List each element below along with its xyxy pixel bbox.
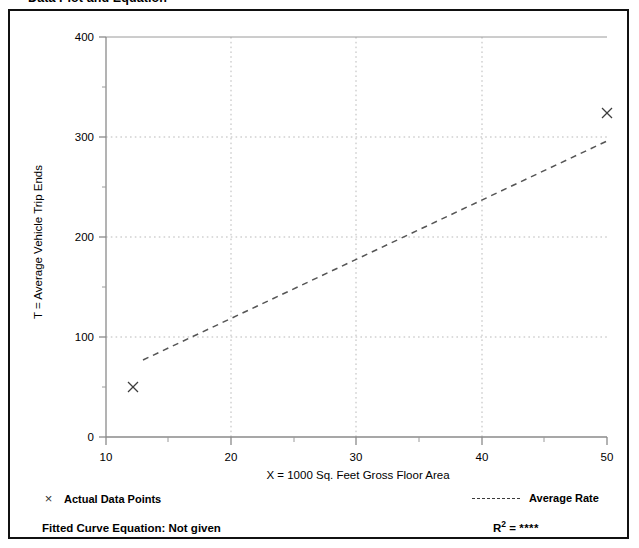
chart-legend: × Actual Data Points Average Rate bbox=[0, 492, 639, 514]
legend-item-average-rate: Average Rate bbox=[472, 492, 599, 504]
y-tick-label-100: 100 bbox=[75, 331, 94, 343]
x-marker-icon: × bbox=[42, 492, 55, 505]
r-squared-equals: = bbox=[509, 522, 516, 534]
y-axis-title: T = Average Vehicle Trip Ends bbox=[32, 165, 44, 319]
x-tick-label-50: 50 bbox=[601, 451, 614, 463]
average-rate-trend-line bbox=[143, 141, 607, 360]
legend-label-average-rate: Average Rate bbox=[529, 492, 599, 504]
legend-label-actual-data-points: Actual Data Points bbox=[64, 493, 161, 505]
x-axis-title: X = 1000 Sq. Feet Gross Floor Area bbox=[266, 469, 450, 481]
y-tick-label-0: 0 bbox=[88, 431, 94, 443]
x-tick-label-10: 10 bbox=[100, 451, 113, 463]
dashed-line-icon bbox=[472, 498, 520, 499]
fitted-curve-equation: Fitted Curve Equation: Not given bbox=[42, 522, 221, 534]
x-tick-label-20: 20 bbox=[225, 451, 238, 463]
legend-item-actual-data-points: × Actual Data Points bbox=[42, 492, 161, 505]
data-point-marker bbox=[128, 108, 612, 392]
y-axis-major-ticks bbox=[99, 37, 106, 437]
x-tick-label-30: 30 bbox=[350, 451, 363, 463]
r-squared-value: R2 = **** bbox=[493, 522, 539, 534]
data-plot-chart: 0 100 200 300 400 10 20 30 40 50 X = 100… bbox=[0, 0, 639, 548]
y-tick-label-300: 300 bbox=[75, 131, 94, 143]
chart-footer: Fitted Curve Equation: Not given R2 = **… bbox=[0, 520, 639, 544]
r-squared-stars: **** bbox=[519, 522, 539, 534]
x-axis-major-ticks bbox=[106, 437, 607, 445]
y-tick-label-200: 200 bbox=[75, 231, 94, 243]
y-tick-label-400: 400 bbox=[75, 31, 94, 43]
r-squared-exponent: 2 bbox=[501, 519, 506, 529]
x-tick-label-40: 40 bbox=[476, 451, 489, 463]
